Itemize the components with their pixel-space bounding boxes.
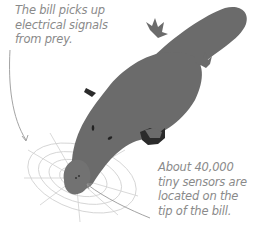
annotation-line: The bill picks up — [15, 3, 108, 18]
annotation-line: tiny sensors are — [158, 175, 247, 190]
annotation-line: electrical signals — [15, 18, 108, 33]
annotation-sensors: About 40,000 tiny sensors are located on… — [158, 160, 247, 218]
annotation-line: About 40,000 — [158, 160, 247, 175]
annotation-electrical-signals: The bill picks up electrical signals fro… — [15, 3, 108, 47]
annotation-line: located on the — [158, 189, 247, 204]
annotation-line: tip of the bill. — [158, 204, 247, 219]
annotation-line: from prey. — [15, 32, 108, 47]
